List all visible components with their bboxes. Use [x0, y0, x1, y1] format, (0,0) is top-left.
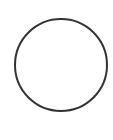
- circle-graphic: [0, 0, 113, 140]
- circle-outline-icon: [15, 19, 107, 111]
- canvas: [0, 0, 113, 140]
